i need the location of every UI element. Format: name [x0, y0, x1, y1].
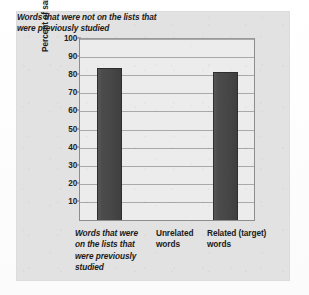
y-tick-label: 10 — [53, 196, 77, 205]
y-tick-label: 20 — [53, 178, 77, 187]
gridline — [80, 39, 254, 40]
x-axis-label-unrelated: Unrelated words — [156, 228, 208, 251]
y-tick-label: 100 — [53, 34, 77, 43]
y-tick-label: 30 — [53, 160, 77, 169]
gridline — [80, 57, 254, 58]
x-axis-label-studied: Words that were on the lists that were p… — [75, 228, 149, 274]
y-axis-tick-labels: 100908070605040302010 — [51, 38, 77, 221]
y-tick-label: 60 — [53, 106, 77, 115]
y-tick-label: 70 — [53, 88, 77, 97]
plot-area — [79, 38, 255, 221]
x-axis-label-related: Related (target) words — [207, 228, 287, 251]
y-axis-title: Percent of sample recalling each type of… — [38, 0, 52, 54]
y-tick-label: 90 — [53, 52, 77, 61]
bar — [213, 72, 238, 220]
y-tick-label: 40 — [53, 142, 77, 151]
figure: Percent of sample recalling each type of… — [0, 0, 309, 295]
chart-card: Percent of sample recalling each type of… — [17, 12, 289, 280]
y-tick-label: 80 — [53, 70, 77, 79]
y-tick-label: 50 — [53, 124, 77, 133]
bar — [97, 68, 122, 220]
